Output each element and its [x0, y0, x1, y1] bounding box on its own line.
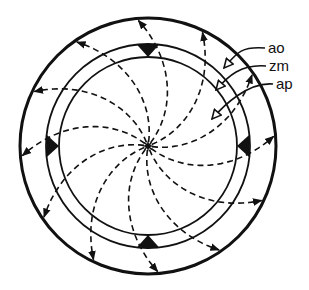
- spiral-arrow: [151, 136, 274, 165]
- wedge-right-icon: [237, 135, 249, 157]
- spiral-arrow: [129, 149, 158, 272]
- label-text-zm: zm: [269, 57, 289, 74]
- spiral-arrow: [22, 127, 144, 156]
- label-text-ao: ao: [268, 39, 285, 56]
- center-hub-icon: [142, 140, 154, 152]
- center-star-icon: [142, 140, 154, 152]
- leader-line-ao: [224, 48, 265, 68]
- wedge-top-icon: [137, 45, 159, 57]
- label-text-ap: ap: [276, 75, 293, 92]
- radial-diagram: aozmap ao zm ap: [0, 0, 309, 290]
- diagram-canvas: aozmap: [0, 0, 309, 290]
- spiral-arrow: [138, 20, 167, 142]
- wedge-bottom-icon: [137, 235, 159, 247]
- wedge-left-icon: [47, 135, 59, 157]
